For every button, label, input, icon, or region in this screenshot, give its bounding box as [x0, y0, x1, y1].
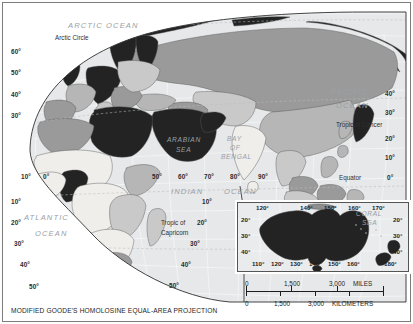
- scale-tick-3-bot: [349, 291, 350, 296]
- inset-map-graphic: [238, 203, 409, 272]
- inset-map-australia[interactable]: CORAL SEA 120° 140° 150° 160° 170° 110° …: [237, 202, 409, 272]
- land-southern-africa: [84, 229, 134, 276]
- land-sri-lanka: [248, 181, 259, 193]
- figure-caption: MODIFIED GOODE'S HOMOLOSINE EQUAL-AREA P…: [11, 308, 217, 315]
- scale-tick-4-bot: [383, 291, 384, 296]
- scale-tick-2-top: [337, 286, 338, 291]
- scale-tick-0-bot: [246, 291, 247, 296]
- land-ireland: [48, 67, 60, 81]
- scale-bar: [246, 291, 383, 292]
- land-south-africa: [97, 252, 132, 282]
- map-figure: ARCTIC OCEAN Arctic Circle PACIFIC OCEAN…: [0, 0, 413, 324]
- figure-frame: ARCTIC OCEAN Arctic Circle PACIFIC OCEAN…: [2, 2, 411, 322]
- scale-tick-1-bot: [280, 291, 281, 296]
- scale-tick-1-top: [291, 286, 292, 291]
- land-tasmania: [313, 266, 323, 272]
- scale-tick-2-bot: [315, 291, 316, 296]
